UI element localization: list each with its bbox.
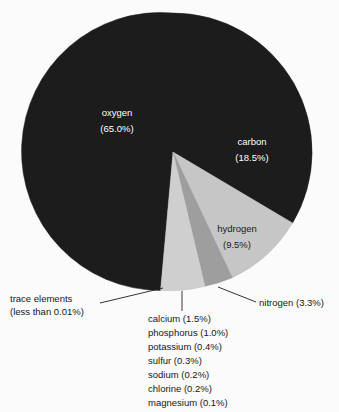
trace-list-item-chlorine: chlorine (0.2%) [148, 383, 212, 394]
trace-list-item-calcium: calcium (1.5%) [148, 313, 211, 324]
trace-list-item-magnesium: magnesium (0.1%) [148, 397, 228, 408]
label-oxygen-name: oxygen [102, 107, 133, 118]
leader-line-nitrogen [218, 287, 256, 302]
callout-trace-elements-line1: trace elements [10, 293, 73, 304]
label-carbon-percent: (18.5%) [235, 152, 268, 163]
leader-line-trace-elements [100, 288, 163, 303]
pie-slice-oxygen [22, 12, 173, 290]
callout-nitrogen: nitrogen (3.3%) [259, 297, 324, 308]
pie-chart-svg: oxygen (65.0%) carbon (18.5%) hydrogen (… [0, 0, 339, 412]
pie-chart-figure: oxygen (65.0%) carbon (18.5%) hydrogen (… [0, 0, 339, 412]
callout-trace-elements-line2: (less than 0.01%) [10, 306, 84, 317]
label-hydrogen-percent: (9.5%) [223, 239, 251, 250]
trace-list-item-potassium: potassium (0.4%) [148, 341, 222, 352]
trace-list-item-phosphorus: phosphorus (1.0%) [148, 327, 228, 338]
trace-list-item-sulfur: sulfur (0.3%) [148, 355, 202, 366]
label-hydrogen-name: hydrogen [217, 223, 257, 234]
trace-list-item-sodium: sodium (0.2%) [148, 369, 209, 380]
label-carbon-name: carbon [237, 136, 266, 147]
label-oxygen-percent: (65.0%) [100, 123, 133, 134]
